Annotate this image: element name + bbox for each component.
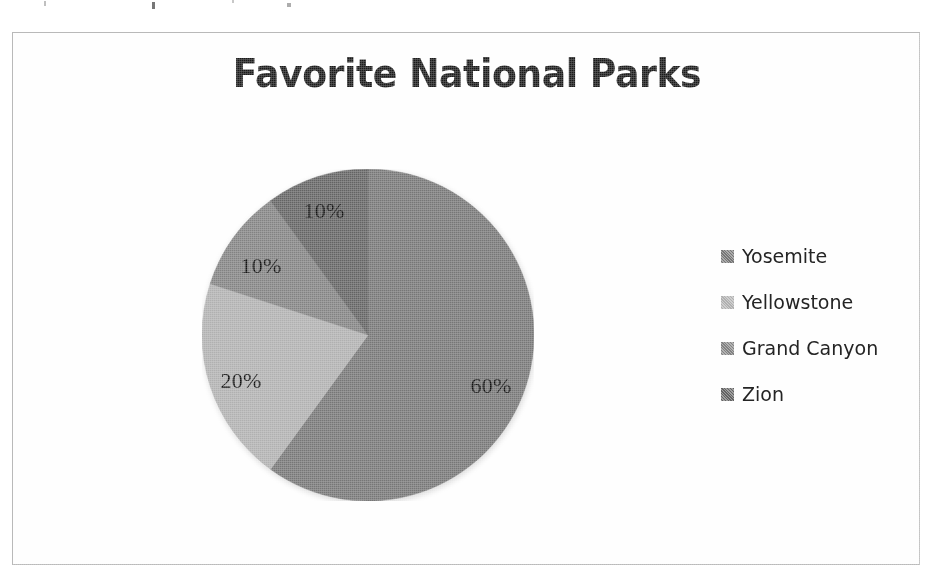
chart-legend: YosemiteYellowstoneGrand CanyonZion: [721, 245, 885, 429]
pie-slice-label: 10%: [303, 198, 344, 224]
pie-slice-label: 60%: [470, 373, 511, 399]
chart-frame: Favorite National Parks: [12, 32, 920, 565]
legend-item-zion[interactable]: Zion: [721, 383, 885, 405]
pie-chart-svg: [202, 169, 534, 501]
legend-item-label: Yellowstone: [742, 290, 853, 314]
legend-item-yellowstone[interactable]: Yellowstone: [721, 291, 885, 313]
scan-speck: [44, 1, 46, 6]
plot-area: 60%20%10%10% YosemiteYellowstoneGrand Ca…: [13, 33, 921, 566]
scan-speck: [287, 3, 291, 7]
legend-item-label: Yosemite: [742, 244, 827, 268]
legend-item-grand-canyon[interactable]: Grand Canyon: [721, 337, 885, 359]
scan-speck: [232, 0, 234, 3]
pie-slice-label: 10%: [240, 253, 281, 279]
scan-speck: [152, 2, 155, 9]
legend-item-yosemite[interactable]: Yosemite: [721, 245, 885, 267]
legend-swatch-zion: [721, 388, 734, 401]
pie-chart: [202, 169, 534, 501]
legend-item-label: Zion: [742, 382, 784, 406]
legend-swatch-yellowstone: [721, 296, 734, 309]
legend-swatch-yosemite: [721, 250, 734, 263]
pie-slice-label: 20%: [220, 368, 261, 394]
legend-item-label: Grand Canyon: [742, 336, 878, 360]
pie-slice-group: [202, 169, 534, 501]
legend-swatch-grand-canyon: [721, 342, 734, 355]
scan-artifacts: [0, 0, 934, 30]
